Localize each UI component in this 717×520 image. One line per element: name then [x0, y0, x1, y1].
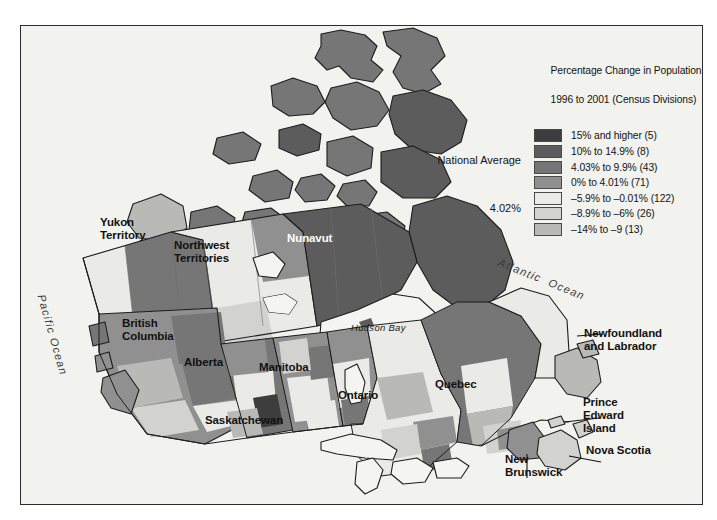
legend-label: 15% and higher (5): [571, 130, 657, 141]
legend-row: –5.9% to –0.01% (122): [534, 190, 703, 206]
legend-label: –5.9% to –0.01% (122): [571, 193, 674, 204]
label-newfoundland-and-labrador: Newfoundland and Labrador: [584, 327, 662, 353]
national-average-label: National Average: [421, 153, 521, 169]
legend-row: 10% to 14.9% (8): [534, 144, 703, 160]
legend-row: 0% to 4.01% (71): [534, 175, 703, 191]
label-new-brunswick: New Brunswick: [505, 453, 562, 479]
legend-title: Percentage Change in Population 1996 to …: [534, 50, 703, 121]
label-quebec: Quebec: [435, 378, 477, 391]
legend-swatch: [534, 207, 562, 220]
legend-row: –8.9% to –6% (26): [534, 206, 703, 222]
legend-swatch: [534, 161, 562, 174]
legend-rows: 15% and higher (5)10% to 14.9% (8)4.03% …: [534, 128, 703, 237]
legend-swatch: [534, 129, 562, 142]
label-nunavut: Nunavut: [287, 232, 332, 245]
legend-title-line1: Percentage Change in Population: [551, 65, 702, 76]
national-average-value: 4.02%: [421, 201, 521, 217]
label-yukon: Yukon Territory: [100, 216, 146, 242]
province-prince-edward-island: [548, 416, 565, 428]
label-nova-scotia: Nova Scotia: [586, 444, 651, 457]
legend-row: –14% to –9 (13): [534, 222, 703, 238]
legend-label: 4.03% to 9.9% (43): [571, 162, 657, 173]
label-saskatchewan: Saskatchewan: [205, 414, 283, 427]
label-manitoba: Manitoba: [259, 361, 309, 374]
legend-row: 15% and higher (5): [534, 128, 703, 144]
label-hudson-bay: Hudson Bay: [351, 323, 406, 334]
map-frame: .c1{fill:#3d3d3d} /* 15%+ */ .c2{fill:#5…: [20, 25, 703, 505]
label-british-columbia: British Columbia: [122, 317, 174, 343]
legend-swatch: [534, 145, 562, 158]
legend-label: 10% to 14.9% (8): [571, 146, 649, 157]
label-northwest-territories: Northwest Territories: [174, 239, 229, 265]
legend-label: –8.9% to –6% (26): [571, 208, 655, 219]
national-average-block: National Average 4.02%: [421, 121, 521, 249]
legend-label: –14% to –9 (13): [571, 224, 643, 235]
legend-label: 0% to 4.01% (71): [571, 177, 649, 188]
legend-title-line2: 1996 to 2001 (Census Divisions): [551, 94, 697, 105]
label-prince-edward-island: Prince Edward Island: [583, 396, 624, 435]
legend-swatch: [534, 223, 562, 236]
legend-swatch: [534, 176, 562, 189]
legend-swatch: [534, 192, 562, 205]
label-alberta: Alberta: [184, 356, 223, 369]
legend-row: 4.03% to 9.9% (43): [534, 159, 703, 175]
label-ontario: Ontario: [338, 389, 378, 402]
map-legend: Percentage Change in Population 1996 to …: [534, 50, 703, 237]
